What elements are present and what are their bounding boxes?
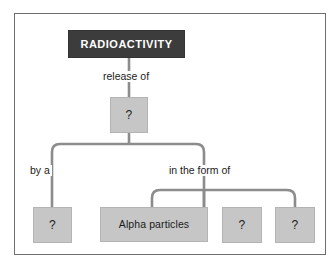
node-by-a-blank-label: ?: [49, 219, 56, 231]
node-alpha-particles[interactable]: Alpha particles: [100, 207, 208, 242]
node-form-blank-2-label: ?: [239, 219, 246, 231]
node-radioactivity-label: RADIOACTIVITY: [80, 39, 172, 50]
edge-label-by-a-text: by a: [30, 164, 50, 176]
edge-label-by-a: by a: [28, 165, 52, 176]
node-radioactivity[interactable]: RADIOACTIVITY: [68, 30, 185, 58]
node-alpha-particles-label: Alpha particles: [119, 219, 189, 230]
edge-label-release-of: release of: [101, 71, 151, 82]
edge-label-in-the-form-of: in the form of: [167, 165, 232, 176]
node-form-blank-3-label: ?: [292, 219, 299, 231]
edge-label-in-the-form-of-text: in the form of: [169, 164, 230, 176]
node-release-blank-label: ?: [126, 109, 133, 121]
concept-map-diagram: RADIOACTIVITY release of ? by a in the f…: [0, 0, 335, 267]
node-by-a-blank[interactable]: ?: [33, 207, 72, 243]
node-form-blank-2[interactable]: ?: [222, 207, 262, 243]
node-form-blank-3[interactable]: ?: [275, 207, 315, 243]
edge-label-release-of-text: release of: [103, 70, 149, 82]
node-release-blank[interactable]: ?: [110, 97, 148, 133]
